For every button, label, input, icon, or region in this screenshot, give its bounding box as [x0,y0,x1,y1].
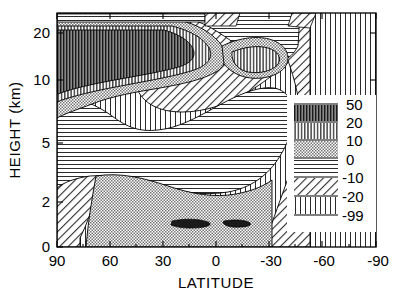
legend-swatch-0 [294,159,338,176]
x-tick-90: 90 [49,252,66,269]
contour-plot-svg: 50 20 10 0 -10 -20 -99 20 10 5 2 0 90 60… [0,0,402,298]
y-tick-10: 10 [33,71,50,88]
x-tick-0: 0 [212,252,220,269]
legend-swatch-50 [294,105,338,121]
band-fifty-low-left [171,219,210,228]
contour-figure: 50 20 10 0 -10 -20 -99 20 10 5 2 0 90 60… [0,0,402,298]
legend-swatch-20 [294,123,338,139]
legend: 50 20 10 0 -10 -20 -99 [287,95,376,232]
x-tick-minus60: -60 [313,252,335,269]
y-axis-title: HEIGHT (km) [6,81,23,178]
legend-swatch-10 [294,141,338,157]
legend-label-20: 20 [346,114,363,131]
legend-label-minus99: -99 [342,207,364,224]
legend-label-50: 50 [346,96,363,113]
legend-swatch-minus20 [294,197,338,214]
y-tick-20: 20 [33,24,50,41]
legend-swatch-minus10 [294,178,338,195]
x-tick-minus90: -90 [367,252,389,269]
x-tick-30: 30 [155,252,172,269]
x-axis-title: LATITUDE [178,274,254,291]
x-tick-minus30: -30 [260,252,282,269]
legend-label-10: 10 [346,132,363,149]
y-tick-2: 2 [42,193,50,210]
band-fifty-low-right [223,220,251,227]
x-tick-labels: 90 60 30 0 -30 -60 -90 [49,252,389,269]
legend-label-minus20: -20 [342,188,364,205]
y-tick-labels: 20 10 5 2 0 [33,24,50,255]
x-tick-60: 60 [102,252,119,269]
legend-label-0: 0 [346,151,354,168]
legend-label-minus10: -10 [342,169,364,186]
y-tick-5: 5 [42,134,50,151]
